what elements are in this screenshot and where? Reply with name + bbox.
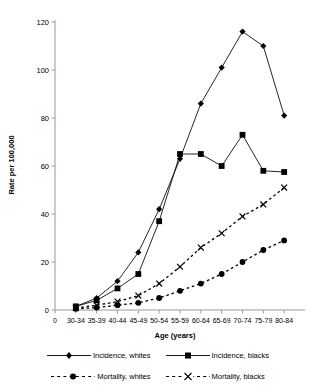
legend-item-mortality-whites: Mortality, whites: [50, 371, 150, 382]
data-point-marker: [219, 65, 225, 71]
x-tick-label: 75-79: [254, 317, 272, 324]
data-point-marker: [156, 206, 162, 212]
series-line: [76, 240, 284, 308]
data-point-marker: [219, 271, 225, 277]
data-point-marker: [156, 281, 162, 287]
x-tick-label: 50-54: [150, 317, 168, 324]
data-point-marker: [240, 214, 246, 220]
data-point-marker: [260, 43, 266, 49]
y-tick-label: 120: [36, 18, 49, 27]
x-tick-label: 55-59: [171, 317, 189, 324]
x-tick-label: 45-49: [129, 317, 147, 324]
data-point-marker: [135, 300, 141, 306]
data-point-marker: [260, 168, 266, 174]
legend-row-mortality: Mortality, whites Mortality, blacks: [0, 366, 315, 387]
data-point-marker: [281, 113, 287, 119]
x-tick-label: 30-34: [67, 317, 85, 324]
legend-swatch-diamond-solid: [46, 350, 92, 361]
data-point-marker: [177, 288, 183, 294]
data-point-marker: [198, 151, 204, 157]
y-tick-label: 80: [41, 114, 49, 123]
legend-label-mortality-whites: Mortality, whites: [97, 372, 150, 381]
data-point-marker: [281, 238, 287, 244]
data-point-marker: [135, 271, 141, 277]
data-series-group: [73, 29, 288, 312]
x-axis: 030-3435-3940-4445-4950-5455-5960-6465-6…: [53, 310, 305, 324]
y-tick-label: 100: [36, 66, 49, 75]
data-point-marker: [156, 295, 162, 301]
data-point-marker: [135, 249, 141, 255]
chart-plot-area: 020406080100120 030-3435-3940-4445-4950-…: [0, 0, 315, 345]
legend-item-mortality-blacks: Mortality, blacks: [165, 371, 265, 382]
y-tick-label: 60: [41, 162, 49, 171]
legend-item-incidence-blacks: Incidence, blacks: [165, 350, 270, 361]
data-point-marker: [156, 218, 162, 224]
y-tick-label: 20: [41, 258, 49, 267]
rate-by-age-line-chart: 020406080100120 030-3435-3940-4445-4950-…: [0, 0, 315, 345]
legend-label-mortality-blacks: Mortality, blacks: [212, 372, 265, 381]
x-tick-label: 0: [53, 317, 57, 324]
legend-row-incidence: Incidence, whites Incidence, blacks: [0, 345, 315, 366]
data-point-marker: [198, 245, 204, 251]
y-tick-label: 40: [41, 210, 49, 219]
x-tick-label: 60-64: [192, 317, 210, 324]
data-point-marker: [281, 185, 287, 191]
legend-swatch-circle-dashed: [50, 371, 96, 382]
legend-label-incidence-blacks: Incidence, blacks: [212, 351, 270, 360]
x-tick-label: 40-44: [109, 317, 127, 324]
chart-legend: Incidence, whites Incidence, blacks Mort…: [0, 345, 315, 389]
legend-swatch-cross-dashed: [165, 371, 211, 382]
data-point-marker: [240, 132, 246, 138]
data-point-marker: [198, 101, 204, 107]
data-point-marker: [177, 264, 183, 270]
data-point-marker: [219, 230, 225, 236]
x-tick-label: 70-74: [234, 317, 252, 324]
data-point-marker: [115, 286, 121, 292]
data-point-marker: [177, 151, 183, 157]
x-tick-label: 65-69: [213, 317, 231, 324]
legend-swatch-square-solid: [165, 350, 211, 361]
legend-label-incidence-whites: Incidence, whites: [93, 351, 151, 360]
data-point-marker: [281, 169, 287, 175]
series-mortality-whites: [73, 238, 287, 312]
data-point-marker: [260, 202, 266, 208]
y-axis-title: Rate per 100,000: [7, 135, 16, 194]
data-point-marker: [240, 259, 246, 265]
series-line: [76, 32, 284, 307]
data-point-marker: [219, 163, 225, 169]
data-point-marker: [198, 281, 204, 287]
x-axis-title: Age (years): [155, 331, 196, 340]
x-tick-label: 80-84: [275, 317, 293, 324]
x-tick-label: 35-39: [88, 317, 106, 324]
legend-item-incidence-whites: Incidence, whites: [46, 350, 151, 361]
data-point-marker: [239, 29, 245, 35]
data-point-marker: [260, 247, 266, 253]
y-axis: 020406080100120: [36, 18, 55, 315]
y-tick-label: 0: [45, 306, 49, 315]
